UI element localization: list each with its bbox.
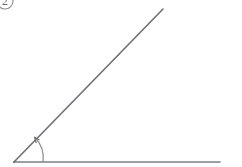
angle-figure-canvas: 2 [0,0,242,167]
badge-label: 2 [2,0,8,8]
angle-figure-svg: 2 [0,0,242,167]
angle-vertex [13,161,15,163]
